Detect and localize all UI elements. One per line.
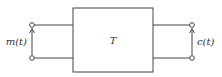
input-label: m(t): [6, 36, 27, 47]
input-top-terminal: [30, 23, 35, 28]
input-bottom-terminal: [30, 56, 35, 61]
output-top-terminal: [190, 23, 195, 28]
output-label: c(t): [197, 36, 215, 47]
block-label: T: [110, 35, 118, 46]
two-port-block-diagram: T m(t) c(t): [0, 0, 222, 77]
output-bottom-terminal: [190, 56, 195, 61]
